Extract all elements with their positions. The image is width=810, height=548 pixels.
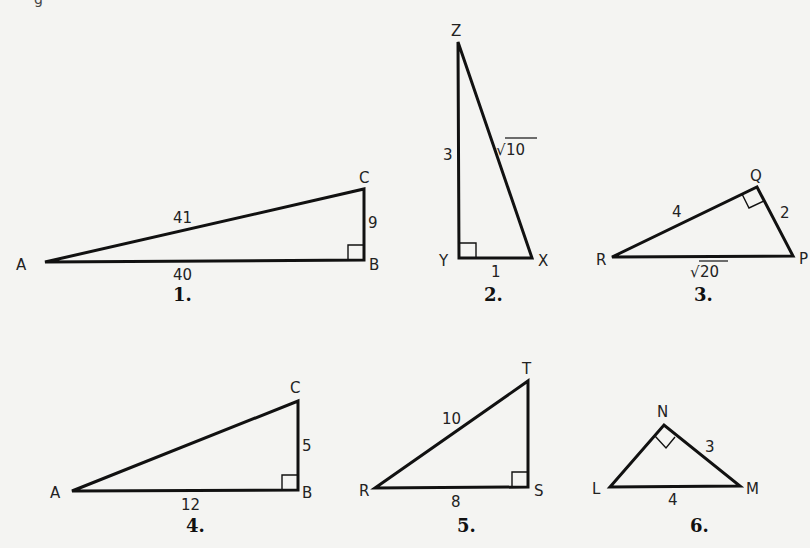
vertex-label-y: Y <box>438 252 449 270</box>
side-label-ac: 41 <box>173 209 192 227</box>
vertex-label-r: R <box>596 251 606 269</box>
vertex-label-p: P <box>799 250 808 268</box>
vertex-label-s: S <box>534 482 544 500</box>
side-label-nm: 3 <box>705 438 715 456</box>
side-label-rp: √ 20 <box>690 261 728 281</box>
right-triangles-diagram: g A C B 41 9 40 1. Z Y X 3 √ 10 1 2. R Q… <box>0 0 810 548</box>
side-label-ab: 40 <box>173 266 192 284</box>
side-label-zx: √ 10 <box>496 138 537 159</box>
triangle-4: A C B 5 12 4. <box>50 379 312 536</box>
side-label-bc: 9 <box>368 214 378 232</box>
vertex-label-t: T <box>521 360 532 378</box>
triangle-5-outline <box>375 381 528 488</box>
vertex-label-m: M <box>746 480 759 498</box>
side-label-zy: 3 <box>443 146 453 164</box>
triangle-3-outline <box>612 187 793 257</box>
side-label-lm: 4 <box>668 491 678 509</box>
right-angle-marker <box>348 245 364 260</box>
vertex-label-c: C <box>359 169 369 187</box>
vertex-label-l: L <box>592 480 601 498</box>
vertex-label-z: Z <box>451 22 461 40</box>
side-label-rt: 10 <box>442 410 461 428</box>
side-label-rs: 8 <box>451 493 461 511</box>
right-angle-marker <box>282 475 298 490</box>
vertex-label-b: B <box>369 256 379 274</box>
radical-sign: √ <box>496 141 506 159</box>
triangle-2: Z Y X 3 √ 10 1 2. <box>438 22 548 305</box>
vertex-label-c: C <box>290 379 300 397</box>
figure-number-1: 1. <box>173 284 192 305</box>
vertex-label-r: R <box>359 482 369 500</box>
side-label-ab: 12 <box>181 496 200 514</box>
radicand: 10 <box>506 141 525 159</box>
figure-number-3: 3. <box>694 284 713 305</box>
side-label-qp: 2 <box>780 204 790 222</box>
vertex-label-n: N <box>657 403 668 421</box>
vertex-label-x: X <box>538 252 548 270</box>
radicand: 20 <box>700 263 719 281</box>
side-label-yx: 1 <box>491 263 501 281</box>
vertex-label-b: B <box>302 484 312 502</box>
vertex-label-a: A <box>16 256 27 274</box>
triangle-1-outline <box>45 189 364 262</box>
side-label-bc: 5 <box>302 437 312 455</box>
right-angle-marker <box>655 436 675 448</box>
figure-number-6: 6. <box>690 515 709 536</box>
triangle-6: L N M 3 4 6. <box>592 403 759 536</box>
top-text-fragment: g <box>34 0 43 7</box>
vertex-label-q: Q <box>750 167 762 185</box>
triangle-6-outline <box>610 425 740 487</box>
figure-number-5: 5. <box>457 515 476 536</box>
side-label-rq: 4 <box>672 203 682 221</box>
right-angle-marker <box>459 243 476 258</box>
right-angle-marker <box>512 472 528 487</box>
figure-number-2: 2. <box>484 284 503 305</box>
vertex-label-a: A <box>50 484 61 502</box>
figure-number-4: 4. <box>186 515 205 536</box>
radical-sign: √ <box>690 263 700 281</box>
triangle-5: R T S 10 8 5. <box>359 360 544 536</box>
triangle-3: R Q P 4 2 √ 20 3. <box>596 167 808 305</box>
triangle-1: A C B 41 9 40 1. <box>16 169 379 305</box>
triangle-4-outline <box>72 401 298 491</box>
